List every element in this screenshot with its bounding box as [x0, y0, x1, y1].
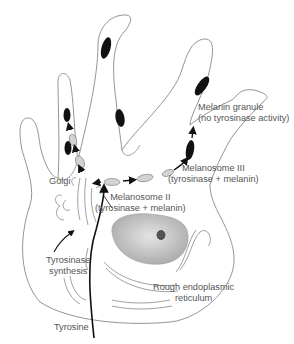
nucleolus — [157, 231, 165, 240]
tyrosinase-synthesis-arrow — [54, 232, 72, 252]
melanin-granules — [64, 36, 212, 160]
label-tyrosinase-synthesis: Tyrosinase synthesis — [46, 255, 90, 276]
label-rough-er: Rough endoplasmic reticulum — [153, 282, 234, 303]
label-melanin-granule: Melanin granule (no tyrosinase activity) — [198, 102, 289, 123]
label-melanosome-ii: Melanosome II (tyrosinase + melanin) — [95, 192, 186, 213]
label-tyrosine: Tyrosine — [54, 322, 89, 333]
nucleus — [112, 214, 188, 265]
label-melanosome-iii: Melanosome III (tyrosinase + melanin) — [168, 163, 259, 184]
melanocyte-diagram: Melanin granule (no tyrosinase activity)… — [0, 0, 294, 344]
label-golgi: Golgi — [49, 176, 70, 187]
melanosome-vesicles — [68, 133, 175, 185]
